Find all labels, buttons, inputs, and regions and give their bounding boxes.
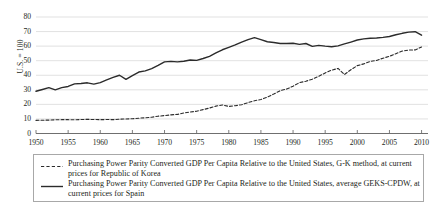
- solid-line-icon: [41, 182, 63, 191]
- y-tick-label: 60: [8, 41, 31, 50]
- legend-item-korea: Purchasing Power Parity Converted GDP Pe…: [41, 159, 420, 178]
- x-tick-label: 1970: [149, 138, 181, 147]
- x-tick-label: 1990: [277, 138, 309, 147]
- legend-label-spain: Purchasing Power Parity Converted GDP Pe…: [68, 179, 420, 198]
- x-tick-label: 1975: [181, 138, 213, 147]
- legend-label-korea: Purchasing Power Parity Converted GDP Pe…: [68, 159, 420, 178]
- legend-item-spain: Purchasing Power Parity Converted GDP Pe…: [41, 179, 420, 198]
- x-tick-label: 2010: [406, 138, 436, 147]
- chart-container: U.S. = 100 01020304050607080 19501955196…: [0, 0, 436, 216]
- x-tick-label: 2000: [341, 138, 373, 147]
- x-tick-label: 1960: [84, 138, 116, 147]
- data-series-group: [36, 32, 422, 121]
- y-tick-label: 40: [8, 70, 31, 79]
- y-tick-label: 30: [8, 85, 31, 94]
- y-tick-label: 80: [8, 12, 31, 21]
- x-tick-label: 1950: [20, 138, 52, 147]
- y-tick-label: 50: [8, 56, 31, 65]
- series-line-spain: [36, 32, 422, 92]
- x-axis-tick-marks: [36, 130, 422, 134]
- x-tick-label: 1955: [52, 138, 84, 147]
- y-tick-label: 0: [8, 129, 31, 138]
- x-tick-label: 1995: [309, 138, 341, 147]
- legend: Purchasing Power Parity Converted GDP Pe…: [33, 154, 424, 202]
- dashed-line-icon: [41, 162, 63, 171]
- gridlines: [36, 17, 428, 119]
- x-tick-label: 1980: [213, 138, 245, 147]
- x-tick-label: 1985: [245, 138, 277, 147]
- x-tick-label: 1965: [116, 138, 148, 147]
- y-tick-label: 10: [8, 114, 31, 123]
- y-tick-label: 70: [8, 27, 31, 36]
- y-tick-label: 20: [8, 99, 31, 108]
- x-tick-label: 2005: [373, 138, 405, 147]
